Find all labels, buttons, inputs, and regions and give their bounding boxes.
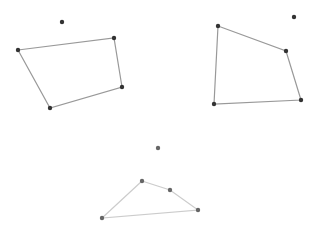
stray-point [156, 146, 160, 150]
quad-top-left [16, 20, 124, 110]
vertex-point [120, 85, 124, 89]
stray-point [60, 20, 64, 24]
vertex-point [48, 106, 52, 110]
vertex-point [284, 49, 288, 53]
vertex-point [140, 179, 144, 183]
quad-top-right [212, 15, 303, 106]
vertex-point [16, 48, 20, 52]
vertex-point [196, 208, 200, 212]
diagram-canvas [0, 0, 314, 236]
quad-bottom [100, 146, 200, 220]
vertex-point [100, 216, 104, 220]
polygon-diagram [0, 0, 314, 236]
vertex-point [212, 102, 216, 106]
vertex-point [112, 36, 116, 40]
polygon-outline [214, 26, 301, 104]
polygon-outline [102, 181, 198, 218]
polygon-outline [18, 38, 122, 108]
vertex-point [168, 188, 172, 192]
stray-point [292, 15, 296, 19]
vertex-point [299, 98, 303, 102]
vertex-point [216, 24, 220, 28]
